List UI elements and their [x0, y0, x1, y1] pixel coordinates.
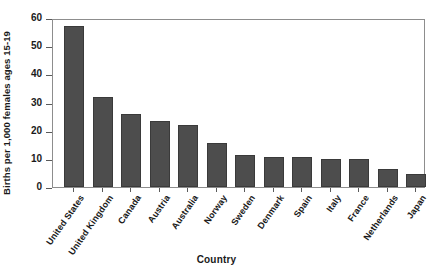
bar: [321, 159, 341, 187]
x-category-label: Austria: [145, 193, 172, 225]
y-tick-mark: [46, 188, 52, 189]
x-axis-tick: [330, 188, 331, 192]
bar: [378, 169, 398, 187]
x-axis-tick: [73, 188, 74, 192]
bar: [264, 157, 284, 187]
y-tick-label: 30: [0, 97, 42, 108]
y-tick-label: 40: [0, 68, 42, 79]
x-axis-tick: [244, 188, 245, 192]
x-axis-tick: [273, 188, 274, 192]
bar: [178, 125, 198, 187]
plot-area: [52, 19, 425, 188]
bar: [349, 159, 369, 187]
x-category-label: Japan: [405, 193, 429, 221]
y-tick-mark: [46, 47, 52, 48]
y-tick-label: 60: [0, 12, 42, 23]
bar-chart: Births per 1,000 females ages 15-19 0102…: [0, 0, 433, 275]
x-axis-tick: [102, 188, 103, 192]
bar: [406, 174, 426, 187]
y-tick-label: 50: [0, 40, 42, 51]
y-tick-mark: [46, 104, 52, 105]
y-tick-mark: [46, 19, 52, 20]
x-category-label: Sweden: [229, 193, 258, 228]
bar: [121, 114, 141, 187]
bar: [93, 97, 113, 187]
x-axis-tick: [415, 188, 416, 192]
y-tick-label: 10: [0, 153, 42, 164]
x-axis-tick: [130, 188, 131, 192]
y-tick-label: 20: [0, 125, 42, 136]
x-axis-tick: [216, 188, 217, 192]
bar: [235, 155, 255, 187]
y-tick-mark: [46, 75, 52, 76]
x-category-label: Italy: [324, 193, 344, 214]
x-category-label: Australia: [169, 193, 201, 232]
y-tick-mark: [46, 132, 52, 133]
bars-container: [53, 20, 424, 187]
bar: [64, 26, 84, 187]
x-axis-tick: [187, 188, 188, 192]
x-axis-title: Country: [0, 254, 433, 265]
y-axis-title: Births per 1,000 females ages 15-19: [1, 26, 17, 201]
bar: [207, 143, 227, 187]
x-axis-tick: [159, 188, 160, 192]
bar: [292, 157, 312, 187]
x-category-label: Canada: [116, 193, 144, 226]
x-axis-tick: [358, 188, 359, 192]
bar: [150, 121, 170, 187]
x-category-label: Denmark: [255, 193, 287, 231]
y-tick-mark: [46, 160, 52, 161]
x-category-label: Spain: [292, 193, 315, 220]
x-category-label: France: [346, 193, 372, 224]
x-axis-tick: [301, 188, 302, 192]
x-category-label: Norway: [202, 193, 230, 226]
y-tick-label: 0: [0, 181, 42, 192]
x-axis-tick: [387, 188, 388, 192]
